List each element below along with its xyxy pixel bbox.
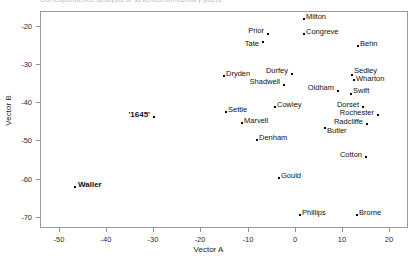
data-point-label: Phillips: [302, 209, 326, 217]
data-point-marker: [299, 214, 301, 216]
x-tick-label: 10: [338, 235, 346, 244]
x-tick-label: 20: [385, 235, 393, 244]
y-tick-label: -30: [4, 60, 32, 69]
data-point-label: Swift: [353, 87, 369, 95]
data-point-marker: [303, 33, 305, 35]
data-point-marker: [365, 156, 367, 158]
data-point-label: Milton: [306, 13, 326, 21]
clipped-figure-title: Correspondence analysis of seventeenth-c…: [40, 0, 300, 3]
data-point-marker: [225, 111, 227, 113]
y-tick-label: -20: [4, 22, 32, 31]
scatter-plot-figure: Correspondence analysis of seventeenth-c…: [0, 0, 417, 260]
data-point-marker: [223, 75, 225, 77]
x-tick-mark: [59, 228, 60, 232]
data-point-label: Settle: [228, 106, 247, 114]
x-tick-label: -10: [243, 235, 254, 244]
data-point-label: Marvell: [244, 117, 268, 125]
x-tick-mark: [389, 228, 390, 232]
data-point-label: Cowley: [277, 101, 302, 109]
x-tick-mark: [200, 228, 201, 232]
data-point-label: Rochester: [340, 109, 374, 117]
x-tick-mark: [106, 228, 107, 232]
data-point-marker: [351, 74, 353, 76]
data-point-marker: [153, 116, 155, 118]
x-tick-mark: [248, 228, 249, 232]
data-point-marker: [353, 79, 355, 81]
data-point-marker: [303, 18, 305, 20]
data-point-label: Wharton: [356, 75, 384, 83]
data-point-marker: [356, 214, 358, 216]
x-tick-label: -20: [195, 235, 206, 244]
data-point-marker: [283, 84, 285, 86]
data-point-marker: [324, 127, 326, 129]
y-tick-mark: [36, 64, 40, 65]
x-tick-label: -30: [148, 235, 159, 244]
data-point-marker: [256, 139, 258, 141]
data-point-label: Durfey: [266, 67, 288, 75]
data-point-marker: [350, 93, 352, 95]
y-tick-mark: [36, 217, 40, 218]
x-axis-label: Vector A: [0, 245, 417, 254]
data-point-label: Radcliffe: [334, 118, 363, 126]
data-point-marker: [357, 45, 359, 47]
data-point-label: Butler: [327, 127, 347, 135]
data-point-label: Brome: [359, 209, 381, 217]
data-point-label: '1645': [128, 111, 150, 119]
data-point-marker: [74, 186, 76, 188]
y-tick-mark: [36, 102, 40, 103]
data-point-marker: [267, 33, 269, 35]
data-point-label: Denham: [259, 134, 287, 142]
data-point-marker: [278, 177, 280, 179]
data-point-marker: [291, 73, 293, 75]
data-point-label: Gould: [281, 172, 301, 180]
data-point-label: Shadwell: [250, 78, 280, 86]
data-point-label: Congreve: [306, 28, 339, 36]
data-point-label: Tate: [245, 40, 259, 48]
data-point-marker: [262, 41, 264, 43]
data-point-marker: [377, 114, 379, 116]
y-tick-mark: [36, 26, 40, 27]
data-point-marker: [337, 90, 339, 92]
x-tick-mark: [342, 228, 343, 232]
y-tick-label: -60: [4, 175, 32, 184]
x-tick-label: 0: [293, 235, 297, 244]
data-point-label: Cotton: [340, 151, 362, 159]
y-tick-label: -70: [4, 213, 32, 222]
data-point-label: Oldham: [308, 84, 334, 92]
y-tick-mark: [36, 179, 40, 180]
data-point-marker: [274, 106, 276, 108]
data-point-label: Behn: [360, 40, 378, 48]
data-point-label: Dryden: [226, 70, 250, 78]
data-point-marker: [366, 123, 368, 125]
data-point-label: Waller: [78, 181, 102, 189]
x-tick-label: -40: [101, 235, 112, 244]
data-point-marker: [241, 122, 243, 124]
x-tick-mark: [295, 228, 296, 232]
y-tick-mark: [36, 140, 40, 141]
x-tick-label: -50: [54, 235, 65, 244]
data-point-label: Prior: [248, 27, 264, 35]
y-axis-label: Vector B: [4, 81, 13, 141]
x-tick-mark: [153, 228, 154, 232]
